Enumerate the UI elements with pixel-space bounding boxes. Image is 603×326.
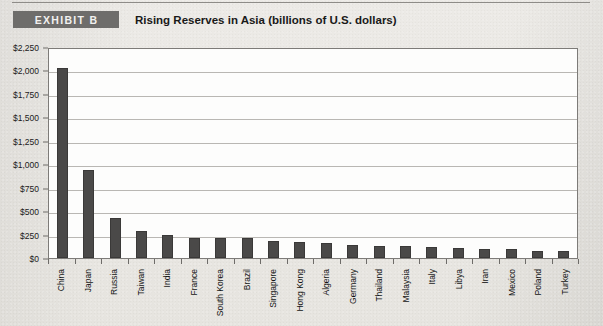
bar-brazil (242, 238, 253, 258)
bar-slot (207, 49, 233, 258)
bar-india (162, 235, 173, 258)
x-label-slot: Italy (419, 267, 446, 325)
x-axis-tick (472, 259, 473, 264)
bar-slot (128, 49, 154, 258)
x-label-slot: France (181, 267, 208, 325)
y-axis-tick-label: $1,750 (13, 90, 39, 100)
x-axis-tick-label: Japan (83, 269, 93, 292)
x-axis-tick-label: Libya (454, 269, 464, 289)
bar-hong-kong (294, 242, 305, 258)
x-axis-tick-label: Singapore (268, 269, 278, 308)
bar-slot (102, 49, 128, 258)
plot-area (48, 48, 578, 259)
page-title: Rising Reserves in Asia (billions of U.S… (135, 11, 397, 28)
exhibit-header: EXHIBIT B Rising Reserves in Asia (billi… (0, 0, 603, 37)
x-axis-tick (499, 259, 500, 264)
bar-germany (347, 245, 358, 258)
bar-series (49, 49, 577, 258)
x-axis-tick (340, 259, 341, 264)
x-label-slot: Mexico (499, 267, 526, 325)
bar-slot (524, 49, 550, 258)
x-axis-tick-label: China (56, 269, 66, 291)
x-label-slot: Germany (340, 267, 367, 325)
bar-malaysia (400, 246, 411, 258)
y-axis-tick-label: $250 (20, 231, 39, 241)
x-axis-tick-label: Poland (533, 269, 543, 295)
x-label-slot: Japan (75, 267, 102, 325)
bar-russia (110, 218, 121, 258)
bar-slot (234, 49, 260, 258)
bar-slot (366, 49, 392, 258)
bar-algeria (321, 243, 332, 258)
bar-turkey (558, 251, 569, 258)
x-axis-tick-label: France (189, 269, 199, 295)
bar-thailand (374, 246, 385, 258)
bar-slot (472, 49, 498, 258)
bar-italy (426, 247, 437, 258)
x-axis-tick-label: Turkey (560, 269, 570, 295)
bar-france (189, 238, 200, 258)
bar-slot (181, 49, 207, 258)
y-axis-tick-label: $1,000 (13, 160, 39, 170)
bar-slot (339, 49, 365, 258)
x-label-slot: Thailand (366, 267, 393, 325)
x-axis-tick-label: Thailand (374, 269, 384, 302)
x-axis-tick (313, 259, 314, 264)
x-axis-tick (419, 259, 420, 264)
x-axis-tick-label: Malaysia (401, 269, 411, 303)
x-axis-tick-label: Mexico (507, 269, 517, 296)
bar-slot (287, 49, 313, 258)
bar-slot (392, 49, 418, 258)
x-axis-tick (525, 259, 526, 264)
x-label-slot: Algeria (313, 267, 340, 325)
x-axis-ticks (48, 259, 578, 267)
y-axis: $2,250$2,000$1,750$1,500$1,250$1,000$750… (0, 37, 44, 270)
y-axis-tick-label: $2,250 (13, 43, 39, 53)
y-axis-tick-label: $2,000 (13, 66, 39, 76)
x-axis-tick-label: Algeria (321, 269, 331, 295)
x-axis-tick (48, 259, 49, 264)
bar-iran (479, 249, 490, 258)
bar-libya (453, 248, 464, 258)
x-axis-tick-label: Taiwan (136, 269, 146, 295)
x-label-slot: Singapore (260, 267, 287, 325)
x-axis-tick (207, 259, 208, 264)
bar-japan (83, 170, 94, 258)
bar-slot (445, 49, 471, 258)
x-axis-tick (366, 259, 367, 264)
x-axis-tick-label: South Korea (215, 269, 225, 316)
x-axis-tick-label: India (162, 269, 172, 287)
bar-slot (313, 49, 339, 258)
x-axis-tick (181, 259, 182, 264)
bar-chart: $2,250$2,000$1,750$1,500$1,250$1,000$750… (0, 37, 603, 326)
y-axis-tick-label: $1,250 (13, 137, 39, 147)
exhibit-badge: EXHIBIT B (13, 11, 119, 28)
x-label-slot: Brazil (234, 267, 261, 325)
bar-south-korea (215, 238, 226, 258)
bar-slot (260, 49, 286, 258)
bar-slot (49, 49, 75, 258)
x-label-slot: Russia (101, 267, 128, 325)
y-axis-tick-label: $1,500 (13, 113, 39, 123)
x-axis-tick-label: Hong Kong (295, 269, 305, 312)
x-axis-tick-label: Russia (109, 269, 119, 295)
x-axis-tick (552, 259, 553, 264)
header-divider (12, 2, 590, 3)
bar-slot (419, 49, 445, 258)
x-axis-tick-label: Iran (480, 269, 490, 284)
x-axis-tick-label: Brazil (242, 269, 252, 290)
x-label-slot: India (154, 267, 181, 325)
x-axis-tick-label: Italy (427, 269, 437, 285)
bar-slot (75, 49, 101, 258)
x-label-slot: Turkey (552, 267, 579, 325)
y-axis-tick-label: $500 (20, 207, 39, 217)
x-label-slot: Taiwan (128, 267, 155, 325)
x-label-slot: Iran (472, 267, 499, 325)
bar-slot (498, 49, 524, 258)
y-axis-tick-label: $750 (20, 184, 39, 194)
x-label-slot: Libya (446, 267, 473, 325)
bar-slot (551, 49, 577, 258)
x-axis-tick (234, 259, 235, 264)
x-axis-tick (578, 259, 579, 264)
x-axis-tick (75, 259, 76, 264)
